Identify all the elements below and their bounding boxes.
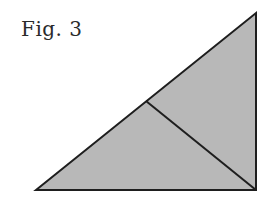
triangle-diagram [0,0,272,200]
